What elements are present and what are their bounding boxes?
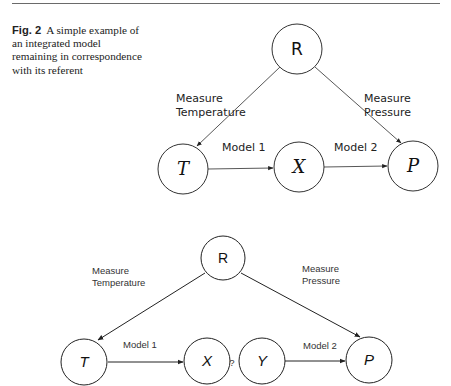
edge-model1 xyxy=(208,168,273,169)
unknown-link-label: ? xyxy=(229,357,234,368)
node-x-label: X xyxy=(201,352,213,369)
edge-measure-pressure xyxy=(241,273,360,337)
figure-diagrams: R T X P Measure Temperature Measure Pres… xyxy=(0,0,451,386)
measure-pressure-line2: Pressure xyxy=(302,275,340,286)
measure-pressure-line2: Pressure xyxy=(364,106,411,119)
top-diagram: R T X P Measure Temperature Measure Pres… xyxy=(158,24,438,194)
model1-label: Model 1 xyxy=(222,141,266,154)
model2-label: Model 2 xyxy=(303,340,337,351)
measure-pressure-line1: Measure xyxy=(302,263,339,274)
node-y-label: Y xyxy=(257,352,268,369)
node-r-label: R xyxy=(291,39,303,59)
node-t-label: T xyxy=(177,158,191,179)
edge-measure-pressure xyxy=(315,67,401,143)
node-p-label: P xyxy=(406,155,420,176)
bottom-diagram: R T X Y P ? Measure Temperature Measure … xyxy=(61,236,392,385)
model1-label: Model 1 xyxy=(123,339,157,350)
node-x-label: X xyxy=(291,156,307,177)
measure-temperature-line2: Temperature xyxy=(92,277,145,288)
measure-temperature-line2: Temperature xyxy=(175,106,246,119)
measure-pressure-line1: Measure xyxy=(364,92,411,105)
node-p-label: P xyxy=(364,351,374,368)
measure-temperature-line1: Measure xyxy=(176,92,223,105)
model2-label: Model 2 xyxy=(334,141,378,154)
measure-temperature-line1: Measure xyxy=(92,265,129,276)
edge-model2 xyxy=(324,166,387,167)
node-r-label: R xyxy=(218,250,228,266)
